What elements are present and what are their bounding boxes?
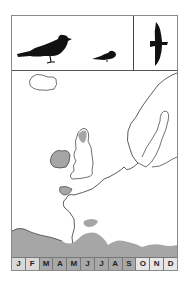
month-cell: A: [109, 258, 123, 270]
baltic-coast: [138, 111, 177, 167]
southern-range: [12, 228, 177, 257]
month-cell: F: [26, 258, 40, 270]
bird-perched-small-icon: [92, 51, 116, 62]
perched-birds: [12, 16, 133, 71]
month-cell: J: [81, 258, 95, 270]
month-cell: J: [12, 258, 26, 270]
month-presence-bar: J F M A M J J A S O N D: [12, 257, 177, 270]
month-cell: S: [123, 258, 137, 270]
ireland-range: [50, 151, 70, 169]
silhouette-panel: [12, 16, 177, 71]
alps-range-patch: [84, 219, 99, 227]
distribution-map: [12, 71, 177, 257]
month-cell: A: [53, 258, 67, 270]
month-cell: N: [150, 258, 164, 270]
month-cell: O: [136, 258, 150, 270]
month-cell: M: [40, 258, 54, 270]
bird-perched-large-icon: [17, 35, 72, 63]
species-card: J F M A M J J A S O N D: [11, 15, 178, 271]
flight-panel: [134, 16, 177, 71]
brittany-range: [60, 186, 73, 195]
month-cell: M: [67, 258, 81, 270]
scandinavia-coast: [127, 73, 177, 163]
month-cell: D: [164, 258, 177, 270]
bird-flight-icon: [134, 16, 177, 71]
month-cell: J: [95, 258, 109, 270]
iceland-outline: [29, 74, 56, 90]
scotland-range: [78, 131, 87, 144]
